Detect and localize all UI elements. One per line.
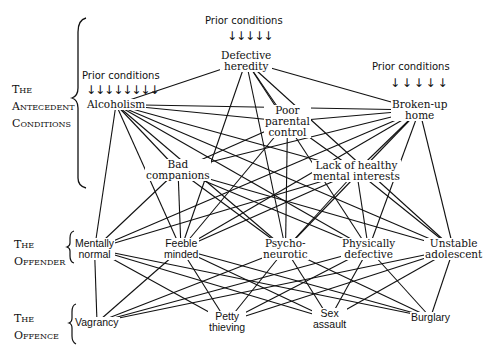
prior-conditions-alcoholism: Prior conditions (82, 70, 160, 81)
section-antecedent-conditions: The Antecedent Conditions (12, 81, 75, 132)
section-offence: The Offence (14, 310, 59, 344)
node-label: assault (313, 319, 346, 330)
node-physically-defective: Physicallydefective (341, 238, 396, 260)
section-word: Antecedent (12, 98, 75, 115)
section-word: The (14, 310, 59, 327)
node-petty-thieving: Pettythieving (208, 311, 246, 333)
node-label: adolescent (425, 249, 482, 260)
section-word: Conditions (12, 115, 75, 132)
edge-mentally_normal-vagrancy (95, 249, 98, 323)
node-bad-companions: Badcompanions (145, 159, 211, 181)
node-lack-of-healthy-mental-interests: Lack of healthymental interests (312, 160, 401, 182)
node-poor-parental-control: Poorparentalcontrol (264, 105, 311, 138)
node-broken-up-home: Broken-uphome (391, 99, 448, 121)
node-mentally-normal: Mentallynormal (74, 238, 115, 260)
node-label: mental interests (313, 171, 400, 182)
edge-poor_control-psychoneurotic (286, 122, 288, 250)
prior-conditions-broken-home: Prior conditions (372, 61, 450, 72)
node-psychoneurotic: Psycho-neurotic (262, 238, 309, 260)
node-sex-assault: Sexassault (312, 308, 347, 330)
node-label: thieving (209, 322, 245, 333)
node-alcoholism: Alcoholism (86, 99, 146, 110)
node-label: home (392, 110, 447, 121)
edge-broken_home-unstable_adolescent (420, 110, 454, 249)
node-label: normal (75, 249, 114, 260)
offender-brace (67, 231, 74, 263)
node-vagrancy: Vagrancy (74, 317, 120, 328)
node-defective-heredity: Defectiveheredity (220, 50, 272, 72)
edge-alcoholism-mentally_normal (95, 105, 117, 250)
node-label: heredity (221, 61, 271, 72)
node-label: defective (342, 249, 395, 260)
node-label: neurotic (263, 249, 308, 260)
node-burglary: Burglary (410, 312, 451, 323)
node-label: minded (164, 249, 198, 260)
section-word: Offence (14, 327, 59, 344)
node-label: control (265, 127, 310, 138)
section-word: The (12, 81, 75, 98)
node-label: Burglary (411, 311, 450, 323)
node-feeble-minded: Feebleminded (163, 238, 199, 260)
node-unstable-adolescent: Unstableadolescent (424, 238, 483, 260)
down-arrows-icon: ↓↓↓↓↓↓↓↓ (86, 83, 158, 97)
edge-psychoneurotic-vagrancy (97, 249, 286, 323)
node-label: Vagrancy (75, 316, 119, 328)
prior-conditions-heredity: Prior conditions (205, 15, 283, 26)
section-offender: The Offender (14, 236, 65, 270)
section-word: Offender (14, 253, 65, 270)
down-arrows-icon: ↓↓↓↓↓ (227, 29, 272, 43)
node-label: Alcoholism (87, 98, 145, 110)
down-arrows-icon: ↓ ↓ ↓ ↓ ↓ (390, 76, 447, 90)
edge-poor_control-feeble_minded (181, 122, 288, 250)
node-label: companions (146, 170, 210, 181)
section-word: The (14, 236, 65, 253)
